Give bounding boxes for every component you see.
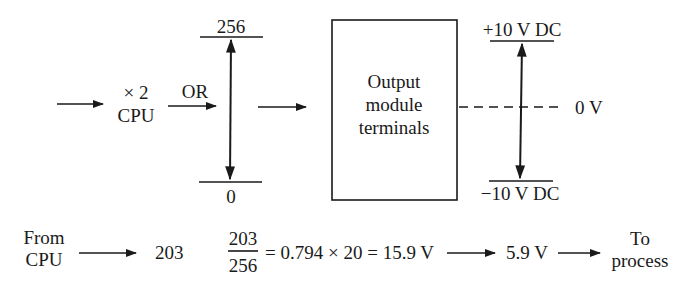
fraction-denominator: 256 [229,255,258,276]
analog-scale: +10 V DC 0 V −10 V DC [459,19,603,204]
or-label: OR [182,81,209,102]
multiplier-label: × 2 [124,82,149,103]
fraction: 203 256 [228,228,258,276]
dac-conversion-diagram: × 2 CPU OR 256 0 Output module terminals… [0,0,695,295]
from-label: From [23,227,64,248]
equation: = 0.794 × 20 = 15.9 V [265,242,434,263]
digital-value: 203 [155,242,184,263]
output-module-box: Output module terminals [332,20,457,200]
result-voltage: 5.9 V [506,242,548,263]
module-label-line2: module [366,94,423,115]
module-label-line1: Output [368,71,422,92]
digital-min-label: 0 [226,186,236,207]
to-label: To [630,228,650,249]
analog-min-label: −10 V DC [481,183,560,204]
analog-max-label: +10 V DC [483,19,562,40]
cpu-source-label: CPU [26,249,63,270]
fraction-numerator: 203 [229,228,258,249]
destination-label: To process [612,228,669,271]
source-label: From CPU [23,227,64,270]
analog-range-arrow-icon [520,44,522,178]
cpu-label: CPU [118,105,155,126]
module-label-line3: terminals [359,117,430,138]
cpu-multiplier-block: × 2 CPU [118,82,155,126]
digital-max-label: 256 [217,16,246,37]
process-label: process [612,250,669,271]
zero-volt-label: 0 V [575,97,603,118]
digital-scale: 256 0 [199,16,263,207]
digital-range-arrow-icon [230,40,231,179]
